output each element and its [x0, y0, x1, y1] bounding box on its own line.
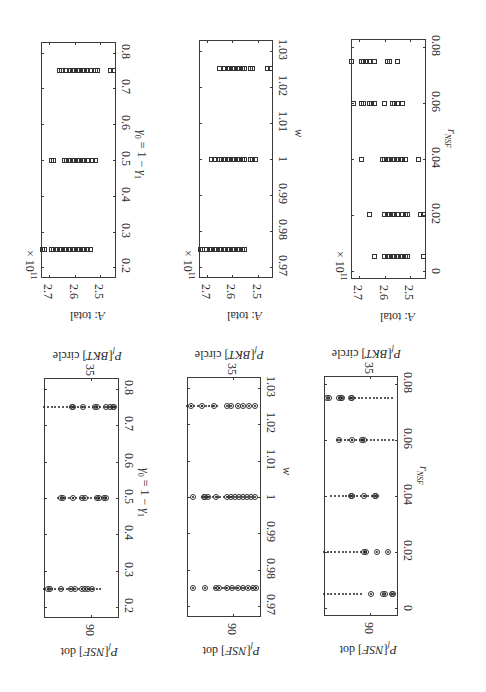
square-marker [400, 101, 405, 106]
nsf-dot-marker [323, 593, 325, 595]
x-tick-mark [113, 53, 116, 54]
nsf-dot-marker [349, 551, 351, 553]
nsf-dot-marker [355, 439, 357, 441]
x-tick-mark [270, 159, 273, 160]
x-tick-mark [113, 88, 116, 89]
y-tick-label-90: 90 [363, 622, 375, 634]
x-tick-mark [395, 440, 398, 441]
nsf-dot-marker [334, 593, 336, 595]
circle-center-dot [255, 587, 257, 589]
y-axis-label-bkt: Pf[BKT] circle [332, 345, 401, 360]
circle-center-dot [375, 495, 377, 497]
y-tick-mark [75, 275, 76, 278]
square-marker [421, 254, 426, 259]
y-tick-mark [258, 40, 259, 43]
y-tick-label: 2.5 [251, 284, 263, 299]
x-tick-mark [270, 123, 273, 124]
square-marker [111, 68, 116, 73]
square-marker [372, 101, 377, 106]
circle-center-dot [192, 496, 194, 498]
nsf-dot-marker [338, 593, 340, 595]
x-tick-label: 1.03 [277, 39, 289, 60]
x-tick-label: 0.7 [123, 416, 135, 431]
square-marker [268, 66, 273, 71]
nsf-dot-marker [342, 495, 344, 497]
x-tick-mark [324, 384, 327, 385]
circle-center-dot [363, 439, 365, 441]
circle-center-dot [376, 551, 378, 553]
y-tick-mark [49, 42, 50, 45]
y-tick-label: 2.6 [378, 285, 390, 300]
x-tick-mark [41, 232, 44, 233]
x-tick-mark [199, 267, 202, 268]
nsf-dot-marker [327, 551, 329, 553]
x-tick-mark [324, 608, 327, 609]
circle-center-dot [113, 406, 115, 408]
x-tick-label: 0.06 [430, 91, 442, 112]
x-tick-mark [270, 51, 273, 52]
x-tick-mark [258, 424, 261, 425]
x-tick-label: 0.8 [120, 44, 132, 59]
x-tick-mark [324, 440, 327, 441]
y-tick-mark [207, 275, 208, 278]
y-tick-label: 2.5 [93, 284, 105, 299]
x-tick-mark [187, 461, 190, 462]
square-marker [253, 157, 258, 162]
x-tick-label: 1.03 [265, 376, 277, 397]
x-tick-mark [44, 389, 47, 390]
nsf-dot-marker [345, 593, 347, 595]
x-tick-mark [113, 160, 116, 161]
y-tick-mark [75, 42, 76, 45]
square-marker [405, 254, 410, 259]
circle-center-dot [82, 406, 84, 408]
y-tick-mark [100, 275, 101, 278]
circle-center-dot [192, 587, 194, 589]
x-tick-mark [116, 534, 119, 535]
x-tick-mark [395, 552, 398, 553]
x-tick-mark [395, 496, 398, 497]
square-marker [349, 59, 354, 64]
x-tick-label: 1.02 [265, 412, 277, 433]
x-tick-label: 0.06 [402, 428, 414, 449]
rotated-figure: 0.20.30.40.50.60.70.8γ0 = 1 − γ12.72.62.… [0, 0, 486, 692]
x-tick-mark [423, 271, 426, 272]
x-tick-mark [44, 534, 47, 535]
square-marker [387, 59, 392, 64]
x-tick-mark [41, 196, 44, 197]
x-tick-mark [187, 388, 190, 389]
square-marker [372, 254, 377, 259]
square-marker [93, 158, 98, 163]
circle-center-dot [105, 497, 107, 499]
nsf-dot-marker [327, 593, 329, 595]
nsf-dot-marker [344, 439, 346, 441]
x-tick-mark [116, 571, 119, 572]
square-marker [416, 157, 421, 162]
y-tick-label: 2.5 [403, 285, 415, 300]
x-tick-label: 0.2 [123, 598, 135, 613]
x-tick-mark [116, 498, 119, 499]
y-tick-label: 2.7 [42, 284, 54, 299]
x-tick-label: 0.08 [402, 372, 414, 393]
square-marker [359, 157, 364, 162]
square-marker [351, 101, 356, 106]
nsf-dot-marker [338, 495, 340, 497]
x-tick-mark [41, 267, 44, 268]
x-axis-label: rNSF [443, 129, 458, 148]
x-tick-mark [258, 461, 261, 462]
y-tick-mark-35 [370, 376, 371, 379]
y-tick-mark [232, 275, 233, 278]
circle-center-dot [237, 405, 239, 407]
y-tick-label-35: 35 [84, 364, 96, 376]
y-tick-mark [100, 42, 101, 45]
nsf-dot-marker [360, 593, 362, 595]
x-tick-label: 0.97 [277, 255, 289, 276]
x-tick-mark [41, 88, 44, 89]
nsf-dot-marker [392, 439, 394, 441]
y-tick-mark [410, 39, 411, 42]
square-marker [372, 59, 377, 64]
x-tick-mark [44, 425, 47, 426]
y-tick-mark-90 [233, 614, 234, 617]
circle-center-dot [74, 588, 76, 590]
x-tick-mark [258, 497, 261, 498]
y-axis-label-nsf: Pf[NSF] dot [60, 643, 117, 658]
